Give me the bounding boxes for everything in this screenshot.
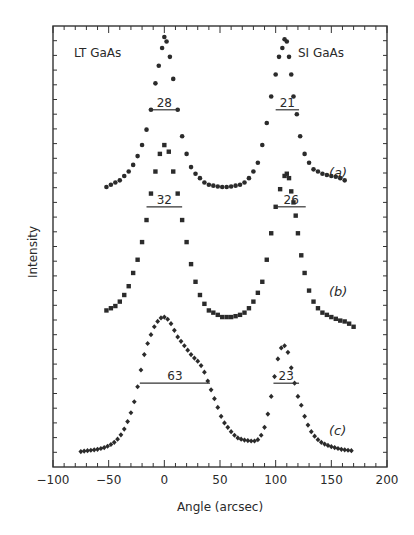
x-tick-label: −100 [37,473,70,487]
x-tick-label: 0 [161,473,169,487]
si-gaas-label: SI GaAs [298,46,344,60]
series-c [78,314,353,454]
fwhm-label: 21 [280,96,295,110]
x-tick-label: −50 [96,473,121,487]
y-axis-label: Intensity [26,226,40,278]
x-tick-label: 50 [212,473,227,487]
axis-ticks [53,26,387,467]
x-tick-label: 100 [264,473,287,487]
fwhm-label: 23 [279,369,294,383]
fwhm-label: 63 [167,369,182,383]
x-tick-labels: −100−50050100150200 [37,473,399,487]
fwhm-label: 28 [157,96,172,110]
x-tick-label: 200 [376,473,399,487]
lt-gaas-label: LT GaAs [74,46,121,60]
fwhm-label: 26 [284,193,299,207]
data-series [78,35,355,454]
curve-b-label: (b) [329,284,347,299]
curve-c-label: (c) [329,423,346,438]
rocking-curve-chart: −100−50050100150200 282132266323 LT GaAs… [0,0,414,535]
x-tick-label: 150 [320,473,343,487]
x-axis-label: Angle (arcsec) [177,500,263,514]
fwhm-annotations: 282132266323 [140,96,306,383]
plot-frame [53,26,387,467]
fwhm-label: 32 [157,193,172,207]
curve-a-label: (a) [329,165,347,180]
